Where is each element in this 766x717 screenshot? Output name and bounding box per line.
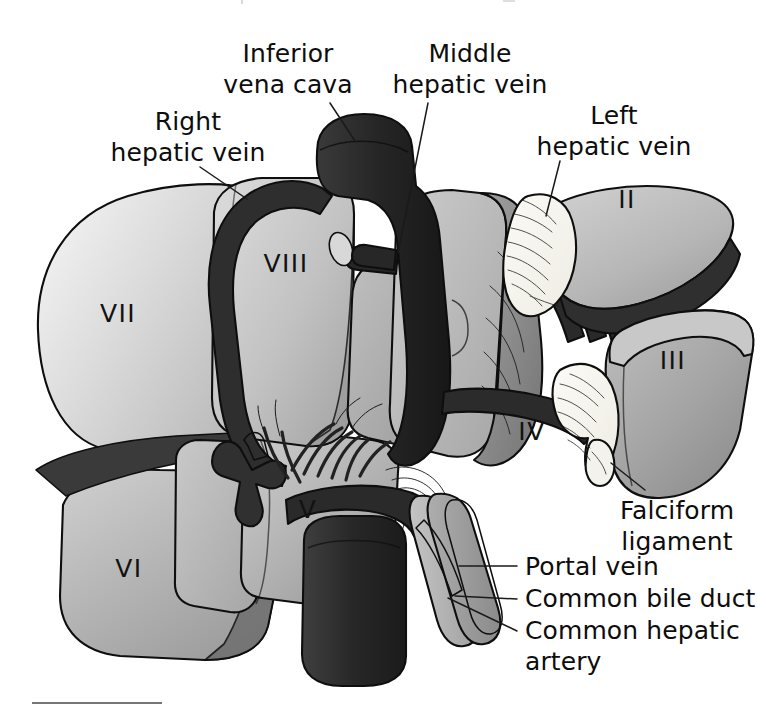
left-hepatic-vein-label-line-1: Left — [590, 101, 638, 130]
segment-iv-numeral: IV — [518, 417, 545, 446]
common-bile-duct-label: Common bile duct — [525, 584, 756, 613]
middle-hepatic-vein-label-line-2: hepatic vein — [392, 70, 547, 99]
segment-ii-numeral: II — [618, 185, 636, 214]
falciform-ligament-label-line-1: Falciform — [620, 496, 734, 525]
segment-vi-numeral: VI — [115, 554, 142, 583]
inferior-vena-cava-label-line-2: vena cava — [223, 70, 352, 99]
common-hepatic-artery-label-line-1: Common hepatic — [525, 616, 740, 645]
segment-viii-vessel-bar — [352, 245, 396, 270]
right-hepatic-vein-label-line-1: Right — [155, 107, 221, 136]
segment-v-numeral: V — [299, 495, 318, 524]
inferior-vena-cava-label-line-1: Inferior — [243, 39, 335, 68]
liver-anatomy-figure: Inferiorvena cavaRighthepatic veinMiddle… — [0, 0, 766, 717]
common-bile-duct-label-line-1: Common bile duct — [525, 584, 756, 613]
segment-vii-numeral: VII — [100, 299, 136, 328]
left-hepatic-vein-label-line-2: hepatic vein — [536, 132, 691, 161]
liver-anatomy-illustration: Inferiorvena cavaRighthepatic veinMiddle… — [0, 0, 766, 717]
portal-vein-label: Portal vein — [525, 552, 659, 581]
segment-viii-numeral: VIII — [264, 249, 309, 278]
portal-vein-label-line-1: Portal vein — [525, 552, 659, 581]
segment-iii-numeral: III — [660, 346, 686, 375]
middle-hepatic-vein-label-line-1: Middle — [428, 39, 511, 68]
common-hepatic-artery-label-line-2: artery — [525, 647, 602, 676]
right-hepatic-vein-label-line-2: hepatic vein — [110, 138, 265, 167]
